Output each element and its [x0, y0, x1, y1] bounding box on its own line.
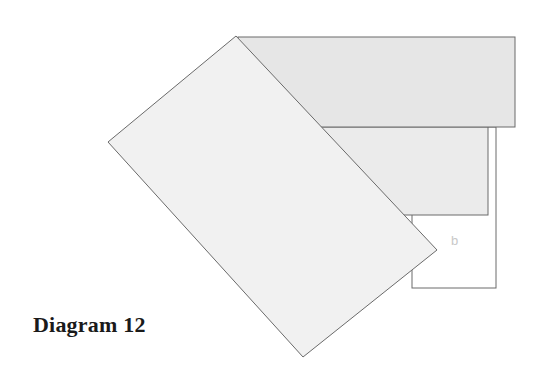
diagram-caption: Diagram 12 [33, 312, 146, 338]
label-b: b [451, 233, 458, 248]
